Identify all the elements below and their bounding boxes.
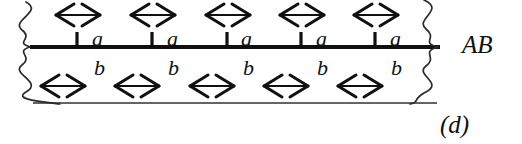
double-arrow-icon — [56, 4, 100, 26]
double-arrow-icon — [131, 4, 175, 26]
tick-mark-group — [77, 32, 375, 47]
interval-label-a: a — [241, 28, 252, 50]
double-arrow-icon — [264, 75, 308, 97]
lower-arrow-group — [41, 75, 382, 97]
double-arrow-icon — [206, 4, 250, 26]
interval-label-a: a — [390, 28, 401, 50]
figure-caption: (d) — [440, 112, 469, 137]
interval-label-a: a — [92, 28, 103, 50]
double-arrow-icon — [190, 75, 234, 97]
interval-label-b: b — [391, 57, 402, 79]
segment-label-ab: AB — [462, 32, 493, 57]
interval-label-b: b — [168, 57, 179, 79]
interval-label-b: b — [317, 57, 328, 79]
interval-label-a: a — [316, 28, 327, 50]
double-arrow-icon — [354, 4, 398, 26]
double-arrow-icon — [115, 75, 159, 97]
double-arrow-icon — [338, 75, 382, 97]
figure-panel-d: a a a a a b b b b b AB (d) — [0, 0, 522, 144]
upper-arrow-group — [56, 4, 398, 26]
double-arrow-icon — [41, 75, 85, 97]
right-wavy-break-icon — [410, 0, 438, 104]
left-wavy-break-icon — [19, 2, 60, 104]
interval-label-b: b — [94, 57, 105, 79]
interval-label-b: b — [243, 57, 254, 79]
interval-label-a: a — [167, 28, 178, 50]
double-arrow-icon — [280, 4, 324, 26]
